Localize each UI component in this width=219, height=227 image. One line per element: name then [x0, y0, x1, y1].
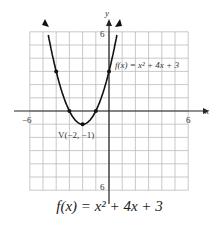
- x-max-tick: 6: [186, 115, 191, 125]
- y-max-tick: 6: [100, 29, 105, 39]
- curve-arrow-right-icon: [115, 19, 122, 27]
- y-axis-arrow-icon: [106, 19, 112, 26]
- x-axis-label: x: [204, 106, 209, 116]
- y-min-tick: 6: [100, 182, 105, 192]
- chart-caption: f(x) = x² + 4x + 3: [0, 198, 219, 215]
- graph: x y −6 6 6 6 f(x) = x² + 4x + 3 V(−2, −1…: [0, 0, 219, 227]
- y-axis-label: y: [104, 8, 109, 18]
- vertex-label: V(−2, −1): [58, 130, 94, 140]
- x-min-tick: −6: [22, 115, 32, 125]
- curve-label: f(x) = x² + 4x + 3: [115, 60, 179, 70]
- curve-arrow-left-icon: [42, 19, 49, 27]
